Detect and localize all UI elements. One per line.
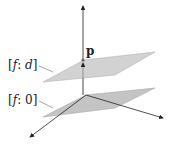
- bracket-close: ]: [33, 58, 38, 72]
- label-val: 0: [25, 93, 33, 107]
- lower-plane: [43, 88, 155, 117]
- bracket-close: ]: [33, 93, 38, 107]
- point-p-label: p: [86, 44, 94, 58]
- lower-label-leader: [39, 101, 53, 108]
- label-sep: :: [17, 58, 25, 72]
- upper-label-leader: [39, 66, 53, 72]
- label-sep: :: [17, 93, 25, 107]
- label-val: d: [25, 58, 33, 72]
- diagram-canvas: [0, 0, 173, 146]
- x-axis: [30, 95, 86, 137]
- point-p: [81, 58, 84, 61]
- upper-plane: [43, 52, 155, 82]
- upper-plane-label: [f: d]: [8, 58, 37, 72]
- lower-plane-label: [f: 0]: [8, 93, 37, 107]
